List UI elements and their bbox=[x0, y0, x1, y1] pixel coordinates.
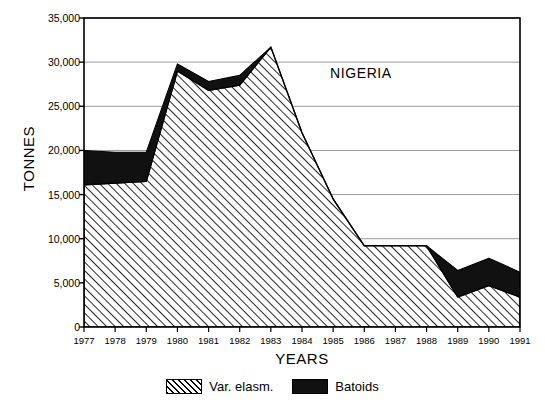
legend-item-var-elasm: Var. elasm. bbox=[166, 379, 273, 394]
chart-legend: Var. elasm. Batoids bbox=[0, 379, 545, 394]
solid-swatch-icon bbox=[292, 379, 328, 394]
legend-label-var-elasm: Var. elasm. bbox=[209, 379, 273, 394]
chart-figure: TONNES 05,00010,00015,00020,00025,00030,… bbox=[0, 0, 545, 416]
hatch-swatch-icon bbox=[166, 379, 202, 394]
x-axis-title: YEARS bbox=[84, 350, 520, 367]
legend-item-batoids: Batoids bbox=[292, 379, 378, 394]
legend-label-batoids: Batoids bbox=[335, 379, 378, 394]
chart-annotation-label: NIGERIA bbox=[330, 65, 392, 81]
x-tick-label: 1991 bbox=[500, 336, 540, 346]
